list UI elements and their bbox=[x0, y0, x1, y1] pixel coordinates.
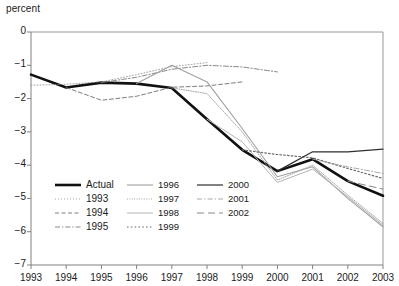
legend-label-1993: 1993 bbox=[86, 193, 108, 204]
legend-label-1999: 1999 bbox=[158, 221, 179, 232]
legend-label-actual: Actual bbox=[86, 179, 114, 190]
x-tick-label: 2002 bbox=[328, 272, 368, 283]
x-tick-label: 1994 bbox=[46, 272, 86, 283]
legend-item-2001[interactable]: 2001 bbox=[197, 192, 267, 205]
x-tick-label: 2000 bbox=[257, 272, 297, 283]
y-tick-label: −3 bbox=[0, 125, 26, 136]
legend-column-2: 1996199719981999 bbox=[127, 178, 197, 233]
plot-area bbox=[0, 0, 399, 286]
legend-swatch-2002-icon bbox=[197, 208, 223, 218]
y-tick-label: −6 bbox=[0, 225, 26, 236]
legend-label-2001: 2001 bbox=[228, 193, 249, 204]
legend-item-actual[interactable]: Actual bbox=[55, 178, 127, 191]
legend-swatch-2000-icon bbox=[197, 180, 223, 190]
legend-swatch-1999-icon bbox=[127, 222, 153, 232]
y-tick-label: −2 bbox=[0, 92, 26, 103]
legend-item-2000[interactable]: 2000 bbox=[197, 178, 267, 191]
y-tick-label: −4 bbox=[0, 158, 26, 169]
x-tick-label: 2003 bbox=[363, 272, 399, 283]
legend-item-1998[interactable]: 1998 bbox=[127, 206, 197, 219]
legend-swatch-1998-icon bbox=[127, 208, 153, 218]
legend-swatch-1993-icon bbox=[55, 194, 81, 204]
legend-item-1994[interactable]: 1994 bbox=[55, 206, 127, 219]
y-tick-label: 0 bbox=[0, 25, 26, 36]
x-tick-label: 1996 bbox=[117, 272, 157, 283]
legend-label-1997: 1997 bbox=[158, 193, 179, 204]
chart-legend: Actual1993199419951996199719981999200020… bbox=[55, 178, 267, 233]
legend-item-2002[interactable]: 2002 bbox=[197, 206, 267, 219]
legend-swatch-1995-icon bbox=[55, 222, 81, 232]
series-line-1999 bbox=[242, 150, 383, 179]
legend-item-1999[interactable]: 1999 bbox=[127, 220, 197, 233]
x-tick-label: 1998 bbox=[187, 272, 227, 283]
legend-column-3: 200020012002 bbox=[197, 178, 267, 233]
axis-ticks bbox=[27, 32, 383, 269]
legend-item-1997[interactable]: 1997 bbox=[127, 192, 197, 205]
legend-label-2002: 2002 bbox=[228, 207, 249, 218]
legend-label-1998: 1998 bbox=[158, 207, 179, 218]
legend-item-1996[interactable]: 1996 bbox=[127, 178, 197, 191]
legend-label-1996: 1996 bbox=[158, 179, 179, 190]
legend-label-1994: 1994 bbox=[86, 207, 108, 218]
legend-swatch-1994-icon bbox=[55, 208, 81, 218]
y-tick-label: −7 bbox=[0, 258, 26, 269]
legend-item-1993[interactable]: 1993 bbox=[55, 192, 127, 205]
legend-swatch-1997-icon bbox=[127, 194, 153, 204]
x-tick-label: 1997 bbox=[152, 272, 192, 283]
x-tick-label: 1993 bbox=[11, 272, 51, 283]
x-tick-label: 2001 bbox=[293, 272, 333, 283]
x-tick-label: 1995 bbox=[81, 272, 121, 283]
legend-label-1995: 1995 bbox=[86, 221, 108, 232]
y-tick-label: −5 bbox=[0, 191, 26, 202]
legend-label-2000: 2000 bbox=[228, 179, 249, 190]
chart-container: percent 0−1−2−3−4−5−6−7 1993199419951996… bbox=[0, 0, 399, 286]
x-tick-label: 1999 bbox=[222, 272, 262, 283]
legend-item-1995[interactable]: 1995 bbox=[55, 220, 127, 233]
legend-column-1: Actual199319941995 bbox=[55, 178, 127, 233]
series-line-2000 bbox=[277, 149, 383, 171]
legend-swatch-2001-icon bbox=[197, 194, 223, 204]
y-tick-label: −1 bbox=[0, 58, 26, 69]
legend-swatch-1996-icon bbox=[127, 180, 153, 190]
legend-swatch-actual-icon bbox=[55, 180, 81, 190]
